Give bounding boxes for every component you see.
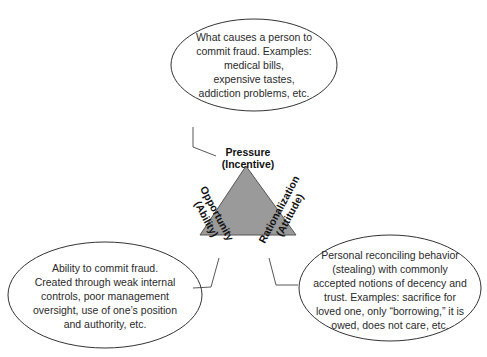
rationalization-callout-line: loved one, only “borrowing,” it is (305, 304, 475, 318)
pressure-callout-line: expensive tastes, (184, 72, 324, 86)
rationalization-callout-line: trust. Examples: sacrifice for (305, 290, 475, 304)
pressure-callout-line: addiction problems, etc. (184, 86, 324, 100)
opportunity-callout-text: Ability to commit fraud. Created through… (25, 261, 185, 331)
rationalization-callout-line: Personal reconciling behavior (305, 248, 475, 262)
pressure-callout-line: commit fraud. Examples: (184, 44, 324, 58)
pressure-callout-line: medical bills, (184, 58, 324, 72)
rationalization-callout-line: owed, does not care, etc. (305, 318, 475, 332)
pressure-label: Pressure (Incentive) (206, 146, 290, 170)
opportunity-callout-line: and authority, etc. (25, 317, 185, 331)
rationalization-callout-line: accepted notions of decency and (305, 276, 475, 290)
opportunity-callout-line: controls, poor management (25, 289, 185, 303)
rationalization-callout-text: Personal reconciling behavior (stealing)… (305, 248, 475, 332)
pressure-label-line1: Pressure (206, 146, 290, 158)
pressure-callout-text: What causes a person to commit fraud. Ex… (184, 30, 324, 100)
opportunity-callout-line: Created through weak internal (25, 275, 185, 289)
opportunity-callout-line: Ability to commit fraud. (25, 261, 185, 275)
opportunity-callout-line: oversight, use of one’s position (25, 303, 185, 317)
rationalization-leader-line (269, 258, 298, 285)
rationalization-callout-line: (stealing) with commonly (305, 262, 475, 276)
pressure-label-line2: (Incentive) (206, 158, 290, 170)
pressure-callout-line: What causes a person to (184, 30, 324, 44)
